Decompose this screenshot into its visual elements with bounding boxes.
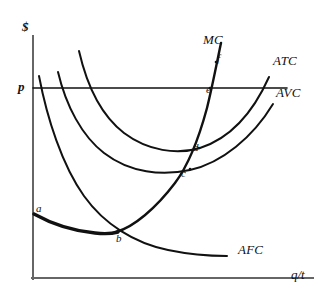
point-label-a: a — [36, 203, 42, 214]
x-axis-label: q/t — [291, 268, 305, 281]
cost-curves-plot — [0, 0, 321, 299]
atc-curve-label: ATC — [273, 54, 297, 67]
point-label-e: e — [206, 84, 211, 95]
y-axis-label: $ — [22, 20, 29, 33]
cost-curves-figure: $ p q/t MC ATC AVC AFC a b c d e f — [0, 0, 321, 299]
mc-curve-label: MC — [203, 33, 223, 46]
point-label-d: d — [193, 142, 199, 153]
avc-curve-label: AVC — [276, 86, 301, 99]
axes-group — [32, 36, 313, 279]
point-markers — [33, 61, 218, 233]
point-marker-c — [189, 168, 192, 171]
price-label: p — [18, 80, 25, 93]
point-label-c: c — [181, 168, 186, 179]
mc-curve-lower-bold — [34, 214, 118, 234]
afc-curve-label: AFC — [238, 243, 263, 256]
point-marker-a — [33, 213, 36, 216]
atc-curve — [79, 51, 269, 151]
point-label-b: b — [116, 233, 122, 244]
point-label-f: f — [217, 53, 220, 64]
